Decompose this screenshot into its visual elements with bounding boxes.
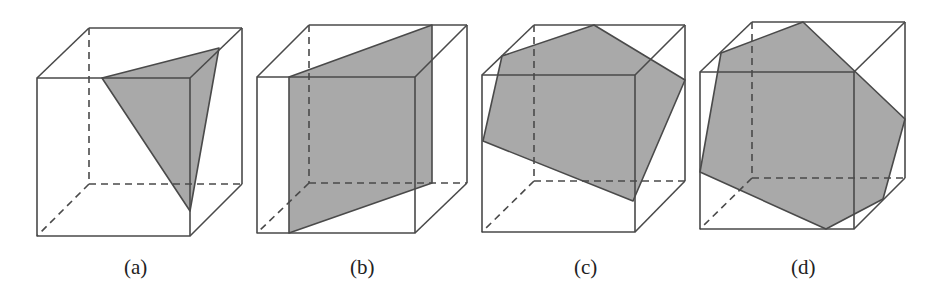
section-triangle: [102, 48, 219, 211]
panel-a: (a): [37, 28, 242, 279]
section-pentagon: [483, 25, 685, 201]
panel-d: (d): [700, 22, 905, 279]
panel-c: (c): [482, 25, 685, 279]
panel-b: (b): [257, 25, 467, 279]
panel-label: (d): [791, 255, 816, 279]
panel-label: (c): [574, 255, 597, 279]
cube-cross-sections-figure: (a) (b): [0, 0, 945, 293]
panel-label: (b): [350, 255, 375, 279]
section-rectangle: [289, 25, 432, 233]
panel-label: (a): [124, 255, 147, 279]
